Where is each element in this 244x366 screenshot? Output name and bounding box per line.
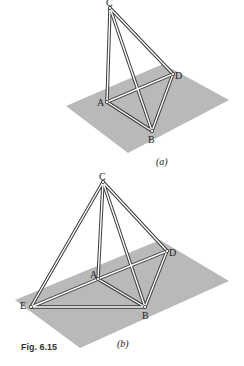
vertex-label-b-b: B bbox=[142, 310, 149, 321]
vertex-label-c-a: C bbox=[106, 0, 113, 8]
vertex-label-d-b: D bbox=[169, 247, 176, 258]
figure-canvas: C A D B (a) bbox=[0, 0, 244, 366]
figure-caption: Fig. 6.15 bbox=[21, 342, 57, 352]
vertex-label-e-b: E bbox=[20, 300, 26, 311]
vertex-label-c-b: C bbox=[99, 171, 106, 182]
vertex-label-d-a: D bbox=[175, 70, 182, 81]
vertex-label-b-a: B bbox=[148, 134, 155, 145]
panel-label-b: (b) bbox=[117, 338, 129, 350]
vertex-label-a-a: A bbox=[97, 97, 105, 108]
vertex-label-a-b: A bbox=[90, 269, 98, 280]
panel-a: C A D B (a) bbox=[66, 0, 229, 168]
panel-b: C A D B E (b) bbox=[15, 171, 229, 350]
panel-label-a: (a) bbox=[156, 156, 168, 168]
